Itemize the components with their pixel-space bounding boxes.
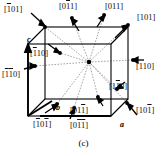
direction-1bar10: [110] [30,49,48,58]
axis-label-a: a [120,120,124,129]
direction-rays [35,15,133,108]
direction-1bar01bar: [101] [33,120,51,129]
direction-01bar1: [011] [59,2,77,11]
direction-011bar: [011] [70,106,88,115]
axis-label-c: c [27,35,31,44]
direction-01bar1bar: [011] [70,121,88,130]
direction-101: [101] [137,13,155,22]
direction-1bar1bar0: [110] [2,70,20,79]
figure-caption: (c) [0,138,167,148]
body-center-point [87,60,92,65]
cube-connecting-edges [28,27,128,116]
unit-cell-diagram [0,0,167,156]
axis-label-b: b [56,103,60,112]
direction-11bar0: [110] [109,82,127,91]
direction-1bar01: [101] [4,5,22,14]
direction-011: [011] [105,2,123,11]
direction-110: [110] [136,62,154,71]
direction-101bar: [101] [136,106,154,115]
